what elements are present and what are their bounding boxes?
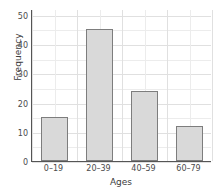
bar-series — [32, 10, 211, 161]
bar — [86, 29, 114, 161]
gridline-horizontal — [32, 162, 211, 163]
y-tick-label: 40 — [10, 41, 28, 50]
x-tick-label: 20–39 — [86, 164, 110, 173]
y-tick-label: 30 — [10, 70, 28, 79]
x-axis-title: Ages — [31, 177, 211, 187]
bar — [131, 91, 159, 161]
x-tick-label: 0–19 — [44, 164, 63, 173]
bar — [41, 117, 69, 161]
histogram-chart: Frequency 01020304050 0–1920–3940–5960–7… — [0, 0, 218, 191]
y-axis-tick-labels: 01020304050 — [10, 0, 28, 191]
y-tick-label: 0 — [10, 158, 28, 167]
y-tick-label: 20 — [10, 99, 28, 108]
gridline-vertical — [212, 10, 213, 161]
x-tick-label: 60–79 — [176, 164, 200, 173]
x-axis-tick-labels: 0–1920–3940–5960–79 — [31, 164, 211, 178]
y-tick-label: 10 — [10, 128, 28, 137]
y-tick-label: 50 — [10, 11, 28, 20]
x-tick-label: 40–59 — [131, 164, 155, 173]
plot-area — [31, 10, 211, 162]
bar — [176, 126, 204, 161]
